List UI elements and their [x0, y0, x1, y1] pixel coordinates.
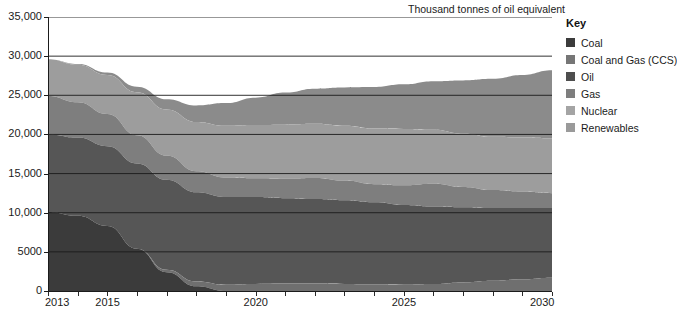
- legend-swatch-icon: [566, 38, 575, 47]
- x-axis-tick-label: 2013: [45, 296, 69, 308]
- legend-item-label: Oil: [581, 71, 594, 83]
- x-axis-tick: [315, 292, 316, 296]
- y-axis-tick-label: 10,000: [0, 206, 42, 218]
- x-axis-tick: [433, 292, 434, 296]
- y-axis-tick: [44, 17, 49, 18]
- plot-area: [48, 17, 552, 291]
- y-axis-tick-label: 15,000: [0, 167, 42, 179]
- legend-swatch-icon: [566, 89, 575, 98]
- legend-item-coal: Coal: [566, 34, 670, 51]
- chart-title: Thousand tonnes of oil equivalent: [408, 3, 565, 15]
- x-axis-tick: [344, 292, 345, 296]
- y-axis-tick-label: 25,000: [0, 88, 42, 100]
- legend-item-oil: Oil: [566, 68, 670, 85]
- legend-item-label: Renewables: [581, 122, 639, 134]
- x-axis-line: [48, 291, 552, 292]
- x-axis-tick-label: 2020: [244, 296, 268, 308]
- x-axis-tick: [226, 292, 227, 296]
- x-axis-tick: [137, 292, 138, 296]
- y-axis-tick: [44, 213, 49, 214]
- legend-swatch-icon: [566, 106, 575, 115]
- legend-swatch-icon: [566, 55, 575, 64]
- y-axis-tick-label: 20,000: [0, 127, 42, 139]
- legend-swatch-icon: [566, 123, 575, 132]
- y-axis-tick: [44, 134, 49, 135]
- legend-item-nuclear: Nuclear: [566, 102, 670, 119]
- y-axis-tick-label: 30,000: [0, 49, 42, 61]
- x-axis-tick-label: 2025: [392, 296, 416, 308]
- legend-title: Key: [566, 17, 670, 29]
- legend-swatch-icon: [566, 72, 575, 81]
- y-axis-tick-label: 0: [0, 284, 42, 296]
- legend-items: CoalCoal and Gas (CCS)OilGasNuclearRenew…: [566, 34, 670, 136]
- y-axis-tick-label: 5000: [0, 245, 42, 257]
- y-axis-tick: [44, 252, 49, 253]
- y-axis-line: [48, 17, 49, 292]
- stacked-area-plot: [48, 17, 552, 291]
- x-axis-tick: [493, 292, 494, 296]
- x-axis-tick: [196, 292, 197, 296]
- legend-item-label: Coal: [581, 37, 603, 49]
- x-axis-tick: [78, 292, 79, 296]
- x-axis-tick: [374, 292, 375, 296]
- y-axis-tick-label: 35,000: [0, 10, 42, 22]
- y-axis-tick: [44, 56, 49, 57]
- y-axis-tick: [44, 174, 49, 175]
- x-axis-tick: [285, 292, 286, 296]
- legend: Key CoalCoal and Gas (CCS)OilGasNuclearR…: [566, 17, 670, 136]
- x-axis-tick: [167, 292, 168, 296]
- legend-item-label: Coal and Gas (CCS): [581, 54, 677, 66]
- legend-item-gas: Gas: [566, 85, 670, 102]
- y-axis-tick: [44, 95, 49, 96]
- legend-item-coal-and-gas-ccs: Coal and Gas (CCS): [566, 51, 670, 68]
- x-axis-tick: [522, 292, 523, 296]
- x-axis-tick-label: 2015: [95, 296, 119, 308]
- legend-item-renewables: Renewables: [566, 119, 670, 136]
- legend-item-label: Nuclear: [581, 105, 617, 117]
- legend-item-label: Gas: [581, 88, 600, 100]
- x-axis-tick-label: 2030: [530, 296, 554, 308]
- area-series-group: [48, 59, 552, 291]
- x-axis-tick: [463, 292, 464, 296]
